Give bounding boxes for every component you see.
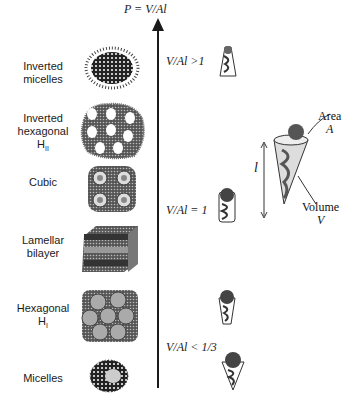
length-symbol: l (254, 160, 258, 176)
lamellar-bilayer-illustration (80, 224, 140, 274)
label-line: hexagonal (8, 125, 78, 138)
label-line: Inverted (8, 112, 78, 125)
phase-label-hexagonal: Hexagonal HI (8, 302, 78, 332)
cone-molecule-icon (220, 352, 246, 392)
label-line: micelles (8, 73, 78, 86)
label-symbol: H (37, 138, 45, 150)
area-annotation: Area A (318, 110, 341, 136)
volume-annotation: Volume V (302, 201, 339, 227)
label-line: bilayer (8, 247, 78, 260)
micelle-illustration (88, 358, 130, 394)
volume-symbol: V (302, 214, 339, 227)
area-symbol: A (318, 123, 341, 136)
marker-label-inverted: V/Al >1 (166, 54, 204, 69)
hexagonal-phase-illustration (78, 286, 142, 346)
label-line: Inverted (8, 60, 78, 73)
label-line: HII (8, 138, 78, 155)
inverted-cone-molecule-icon (218, 44, 238, 80)
label-line: Hexagonal (8, 302, 78, 315)
label-subscript: II (45, 145, 49, 152)
phase-label-micelles: Micelles (8, 372, 78, 385)
axis-title: P = V/Al (124, 2, 167, 17)
phase-label-inverted-micelles: Inverted micelles (8, 60, 78, 86)
inverted-micelle-illustration (82, 44, 142, 92)
marker-label-micelle: V/Al < 1/3 (166, 340, 217, 355)
label-subscript: I (46, 322, 48, 329)
marker-label-bilayer: V/Al = 1 (166, 203, 207, 218)
label-symbol: H (38, 315, 46, 327)
cubic-phase-illustration (86, 164, 138, 214)
phase-label-lamellar-bilayer: Lamellar bilayer (8, 234, 78, 260)
label-line: Lamellar (8, 234, 78, 247)
packing-parameter-axis (157, 30, 159, 388)
phase-label-inverted-hexagonal: Inverted hexagonal HII (8, 112, 78, 155)
cylinder-molecule-icon (216, 186, 238, 226)
label-line: Cubic (8, 176, 78, 189)
inverted-hexagonal-illustration (78, 100, 148, 160)
label-line: Micelles (8, 372, 78, 385)
label-line: HI (8, 315, 78, 332)
phase-label-cubic: Cubic (8, 176, 78, 189)
truncated-cone-molecule-icon (216, 288, 238, 328)
